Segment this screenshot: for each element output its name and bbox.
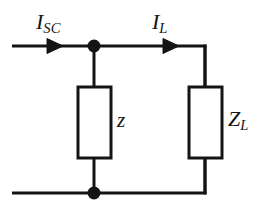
load-current-arrowhead bbox=[163, 39, 179, 54]
load-current-subscript: L bbox=[159, 20, 167, 36]
bottom-junction-node bbox=[88, 187, 101, 200]
source-impedance-box bbox=[78, 87, 111, 158]
source-current-subscript: SC bbox=[43, 20, 60, 36]
load-impedance-label: ZL bbox=[228, 108, 249, 130]
source-current-label: ISC bbox=[36, 11, 61, 33]
source-impedance-symbol: z bbox=[117, 108, 125, 132]
load-impedance-subscript: L bbox=[240, 117, 248, 133]
source-impedance-label: z bbox=[117, 110, 125, 131]
load-current-label: IL bbox=[152, 11, 168, 33]
source-current-arrowhead bbox=[47, 39, 63, 54]
load-impedance-symbol: Z bbox=[228, 106, 240, 131]
top-junction-node bbox=[88, 40, 101, 53]
circuit-diagram: ISC IL z ZL bbox=[0, 0, 263, 215]
load-impedance-box bbox=[189, 87, 222, 158]
